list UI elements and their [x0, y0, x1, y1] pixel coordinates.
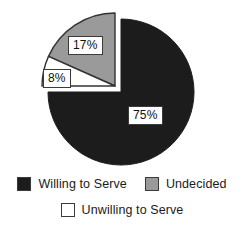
- legend-label-willing-to-serve: Willing to Serve: [38, 178, 126, 191]
- pie-value-label-willing-to-serve: 75%: [128, 106, 163, 125]
- legend-label-undecided: Undecided: [166, 178, 227, 191]
- chart-legend: Willing to Serve Undecided Unwilling to …: [0, 171, 244, 227]
- legend-item-willing-to-serve[interactable]: Willing to Serve: [17, 177, 126, 191]
- legend-row: Willing to Serve Undecided: [0, 171, 244, 197]
- legend-label-unwilling-to-serve: Unwilling to Serve: [82, 204, 184, 217]
- legend-item-unwilling-to-serve[interactable]: Unwilling to Serve: [61, 203, 184, 217]
- pie-plot-area: 17% 8% 75%: [0, 0, 244, 172]
- pie-svg: [0, 0, 244, 172]
- legend-item-undecided[interactable]: Undecided: [145, 177, 227, 191]
- legend-row: Unwilling to Serve: [0, 197, 244, 223]
- legend-swatch-icon-undecided: [145, 177, 159, 191]
- legend-swatch-icon-willing-to-serve: [17, 177, 31, 191]
- pie-chart: 17% 8% 75% Willing to Serve Undecided Un…: [0, 0, 244, 227]
- legend-swatch-icon-unwilling-to-serve: [61, 203, 75, 217]
- pie-value-label-undecided: 17%: [68, 36, 103, 55]
- pie-value-label-unwilling-to-serve: 8%: [43, 69, 71, 88]
